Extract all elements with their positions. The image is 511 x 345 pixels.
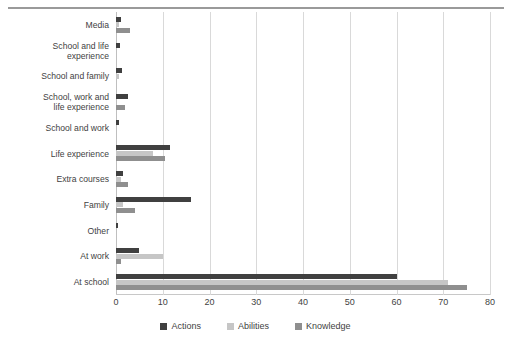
category-label: School, work and life experience — [0, 92, 109, 112]
bar-group — [116, 166, 490, 192]
x-tick-label: 10 — [158, 297, 168, 307]
legend-item-abilities[interactable]: Abilities — [227, 321, 269, 331]
chart-legend: ActionsAbilitiesKnowledge — [0, 318, 511, 334]
y-axis-category-labels: MediaSchool and life experienceSchool an… — [0, 12, 113, 295]
x-tick-label: 60 — [391, 297, 401, 307]
x-tick-label: 0 — [113, 297, 118, 307]
bar-group — [116, 141, 490, 167]
bar-group — [116, 12, 490, 38]
bar-group — [116, 115, 490, 141]
legend-label: Knowledge — [306, 321, 351, 331]
bar-actions — [116, 145, 170, 150]
chart-page: MediaSchool and life experienceSchool an… — [0, 0, 511, 345]
legend-label: Abilities — [238, 321, 269, 331]
bar-actions — [116, 197, 191, 202]
bar-abilities — [116, 74, 119, 79]
bar-actions — [116, 43, 120, 48]
bar-knowledge — [116, 208, 135, 213]
x-tick-label: 70 — [438, 297, 448, 307]
category-label: At work — [0, 251, 109, 261]
category-label: School and life experience — [0, 41, 109, 61]
category-label: Media — [0, 20, 109, 30]
bars-canvas — [116, 12, 490, 295]
bar-knowledge — [116, 259, 121, 264]
x-tick-label: 20 — [204, 297, 214, 307]
legend-item-actions[interactable]: Actions — [160, 321, 201, 331]
bar-group — [116, 63, 490, 89]
bar-group — [116, 269, 490, 295]
bar-knowledge — [116, 105, 125, 110]
x-tick-label: 50 — [345, 297, 355, 307]
bar-abilities — [116, 22, 119, 27]
x-tick-label: 40 — [298, 297, 308, 307]
x-axis-ticks: 01020304050607080 — [116, 297, 490, 311]
bar-actions — [116, 68, 122, 73]
bar-group — [116, 38, 490, 64]
category-label: At school — [0, 277, 109, 287]
top-divider — [8, 7, 504, 9]
legend-item-knowledge[interactable]: Knowledge — [295, 321, 351, 331]
legend-swatch-icon — [227, 323, 234, 330]
bar-group — [116, 218, 490, 244]
legend-swatch-icon — [160, 323, 167, 330]
legend-label: Actions — [171, 321, 201, 331]
bar-abilities — [116, 202, 123, 207]
category-label: School and work — [0, 123, 109, 133]
category-label: Extra courses — [0, 174, 109, 184]
bar-knowledge — [116, 28, 130, 33]
bar-abilities — [116, 254, 163, 259]
bar-knowledge — [116, 182, 128, 187]
bar-group — [116, 192, 490, 218]
bar-group — [116, 89, 490, 115]
bar-actions — [116, 223, 118, 228]
x-tick-label: 30 — [251, 297, 261, 307]
bar-group — [116, 244, 490, 270]
bar-actions — [116, 248, 139, 253]
bar-actions — [116, 94, 128, 99]
plot-area: MediaSchool and life experienceSchool an… — [0, 12, 511, 297]
bar-abilities — [116, 151, 153, 156]
legend-swatch-icon — [295, 323, 302, 330]
bar-abilities — [116, 177, 121, 182]
bar-actions — [116, 274, 397, 279]
x-tick-label: 80 — [485, 297, 495, 307]
bar-knowledge — [116, 285, 467, 290]
category-label: Other — [0, 226, 109, 236]
bar-actions — [116, 171, 123, 176]
category-label: School and family — [0, 71, 109, 81]
category-label: Life experience — [0, 149, 109, 159]
gridline — [490, 12, 491, 295]
bar-actions — [116, 120, 119, 125]
category-label: Family — [0, 200, 109, 210]
bar-abilities — [116, 280, 448, 285]
bar-actions — [116, 17, 121, 22]
bar-knowledge — [116, 156, 165, 161]
